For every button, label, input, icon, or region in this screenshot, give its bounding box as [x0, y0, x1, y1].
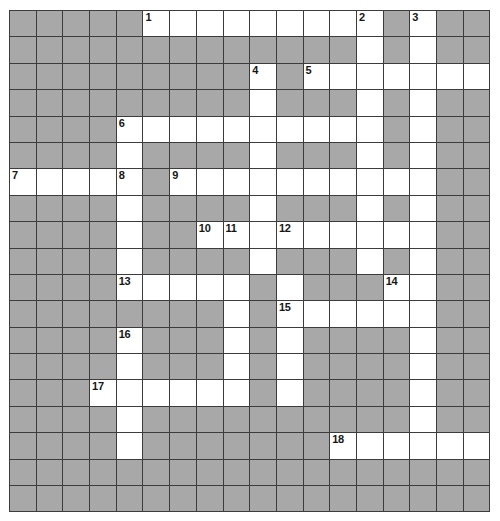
crossword-cell-open[interactable] — [90, 169, 117, 195]
crossword-cell-open[interactable] — [383, 222, 410, 248]
crossword-cell-open[interactable] — [356, 222, 383, 248]
crossword-cell-open[interactable]: 1 — [143, 11, 170, 37]
crossword-cell-open[interactable] — [356, 195, 383, 221]
crossword-cell-open[interactable] — [250, 142, 277, 168]
crossword-cell-open[interactable] — [463, 63, 490, 89]
crossword-cell-open[interactable] — [116, 380, 143, 406]
crossword-cell-open[interactable] — [116, 195, 143, 221]
crossword-cell-open[interactable]: 15 — [276, 301, 303, 327]
crossword-cell-open[interactable] — [303, 222, 330, 248]
crossword-cell-open[interactable] — [410, 327, 437, 353]
crossword-cell-open[interactable]: 3 — [410, 11, 437, 37]
crossword-cell-open[interactable] — [383, 301, 410, 327]
crossword-cell-open[interactable] — [116, 406, 143, 432]
crossword-cell-open[interactable] — [223, 169, 250, 195]
crossword-cell-open[interactable] — [196, 274, 223, 300]
crossword-cell-open[interactable] — [410, 433, 437, 459]
crossword-cell-open[interactable] — [356, 37, 383, 63]
crossword-cell-open[interactable] — [250, 248, 277, 274]
crossword-cell-open[interactable] — [356, 142, 383, 168]
crossword-cell-open[interactable]: 4 — [250, 63, 277, 89]
crossword-cell-open[interactable]: 16 — [116, 327, 143, 353]
crossword-cell-open[interactable] — [410, 248, 437, 274]
crossword-cell-open[interactable] — [223, 327, 250, 353]
crossword-cell-open[interactable] — [276, 169, 303, 195]
crossword-cell-open[interactable] — [223, 354, 250, 380]
crossword-cell-open[interactable] — [410, 169, 437, 195]
crossword-cell-open[interactable]: 5 — [303, 63, 330, 89]
crossword-cell-open[interactable] — [196, 116, 223, 142]
crossword-cell-open[interactable] — [36, 169, 63, 195]
crossword-cell-open[interactable] — [170, 11, 197, 37]
crossword-cell-open[interactable] — [356, 116, 383, 142]
crossword-cell-open[interactable] — [330, 63, 357, 89]
crossword-cell-open[interactable] — [410, 301, 437, 327]
crossword-cell-open[interactable] — [250, 116, 277, 142]
crossword-cell-open[interactable] — [410, 90, 437, 116]
crossword-cell-open[interactable] — [250, 195, 277, 221]
crossword-cell-open[interactable] — [356, 63, 383, 89]
crossword-cell-open[interactable] — [276, 274, 303, 300]
crossword-cell-open[interactable] — [196, 11, 223, 37]
crossword-cell-open[interactable]: 9 — [170, 169, 197, 195]
crossword-cell-open[interactable] — [116, 142, 143, 168]
crossword-cell-open[interactable] — [276, 380, 303, 406]
crossword-cell-open[interactable] — [330, 11, 357, 37]
crossword-cell-open[interactable] — [303, 11, 330, 37]
crossword-cell-open[interactable]: 13 — [116, 274, 143, 300]
crossword-cell-open[interactable]: 8 — [116, 169, 143, 195]
crossword-cell-open[interactable] — [143, 380, 170, 406]
crossword-cell-open[interactable] — [250, 90, 277, 116]
crossword-cell-open[interactable]: 11 — [223, 222, 250, 248]
crossword-cell-open[interactable] — [143, 116, 170, 142]
crossword-cell-open[interactable]: 12 — [276, 222, 303, 248]
crossword-cell-open[interactable] — [276, 11, 303, 37]
crossword-cell-open[interactable] — [356, 433, 383, 459]
crossword-cell-open[interactable] — [276, 116, 303, 142]
crossword-cell-open[interactable] — [330, 222, 357, 248]
crossword-cell-open[interactable] — [410, 116, 437, 142]
crossword-cell-open[interactable] — [303, 301, 330, 327]
crossword-cell-open[interactable] — [330, 301, 357, 327]
crossword-cell-open[interactable] — [410, 406, 437, 432]
crossword-cell-open[interactable] — [116, 248, 143, 274]
crossword-cell-open[interactable] — [356, 90, 383, 116]
crossword-cell-open[interactable]: 14 — [383, 274, 410, 300]
crossword-cell-open[interactable] — [410, 380, 437, 406]
crossword-cell-open[interactable] — [276, 327, 303, 353]
crossword-cell-open[interactable] — [383, 63, 410, 89]
crossword-cell-open[interactable] — [303, 169, 330, 195]
crossword-cell-open[interactable] — [223, 116, 250, 142]
crossword-cell-open[interactable] — [437, 63, 464, 89]
crossword-cell-open[interactable] — [116, 222, 143, 248]
crossword-grid[interactable]: 123456789101112131415161718 — [9, 10, 490, 512]
crossword-cell-open[interactable] — [63, 169, 90, 195]
crossword-cell-open[interactable] — [410, 274, 437, 300]
crossword-cell-open[interactable]: 18 — [330, 433, 357, 459]
crossword-cell-open[interactable] — [330, 116, 357, 142]
crossword-cell-open[interactable] — [116, 433, 143, 459]
crossword-cell-open[interactable] — [410, 354, 437, 380]
crossword-cell-open[interactable] — [223, 380, 250, 406]
crossword-cell-open[interactable] — [356, 169, 383, 195]
crossword-cell-open[interactable]: 2 — [356, 11, 383, 37]
crossword-cell-open[interactable] — [330, 169, 357, 195]
crossword-cell-open[interactable] — [410, 63, 437, 89]
crossword-cell-open[interactable]: 17 — [90, 380, 117, 406]
crossword-cell-open[interactable] — [170, 274, 197, 300]
crossword-cell-open[interactable] — [170, 380, 197, 406]
crossword-cell-open[interactable] — [170, 116, 197, 142]
crossword-cell-open[interactable] — [356, 301, 383, 327]
crossword-cell-open[interactable]: 6 — [116, 116, 143, 142]
crossword-cell-open[interactable] — [437, 433, 464, 459]
crossword-cell-open[interactable] — [223, 301, 250, 327]
crossword-cell-open[interactable]: 10 — [196, 222, 223, 248]
crossword-cell-open[interactable] — [410, 37, 437, 63]
crossword-cell-open[interactable] — [196, 169, 223, 195]
crossword-cell-open[interactable] — [410, 195, 437, 221]
crossword-cell-open[interactable] — [383, 169, 410, 195]
crossword-cell-open[interactable] — [116, 354, 143, 380]
crossword-cell-open[interactable] — [410, 222, 437, 248]
crossword-cell-open[interactable] — [410, 142, 437, 168]
crossword-cell-open[interactable] — [383, 433, 410, 459]
